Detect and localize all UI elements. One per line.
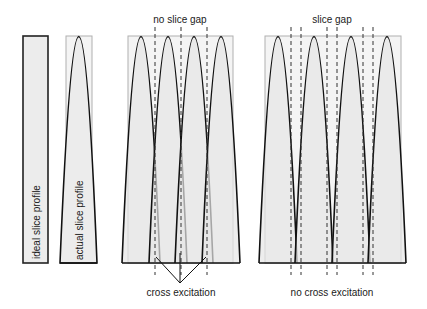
no-cross-excitation-caption: no cross excitation [291, 287, 374, 298]
ideal-slice-profile: ideal slice profile [23, 36, 48, 263]
slice-gap-panel: slice gap no cross excitation [259, 14, 406, 298]
cross-excitation-caption: cross excitation [147, 287, 216, 298]
ideal-profile-label: ideal slice profile [31, 185, 42, 259]
no-slice-gap-title: no slice gap [153, 14, 207, 25]
slice-profile-diagram: ideal slice profile actual slice profile… [0, 0, 427, 309]
no-slice-gap-panel: no slice gap cross excitation [122, 14, 240, 298]
actual-profile-label: actual slice profile [74, 180, 85, 260]
slice-gap-title: slice gap [312, 14, 352, 25]
actual-slice-profile: actual slice profile [60, 36, 97, 263]
